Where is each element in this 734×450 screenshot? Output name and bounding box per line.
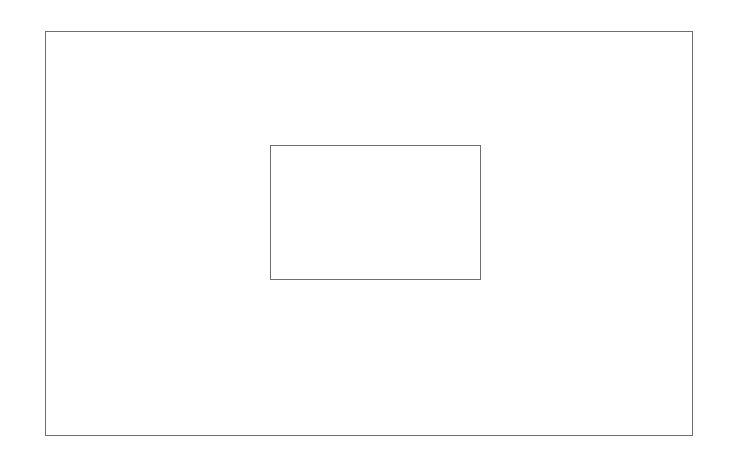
diagram-canvas <box>0 0 734 450</box>
inner-rectangle <box>270 145 481 280</box>
